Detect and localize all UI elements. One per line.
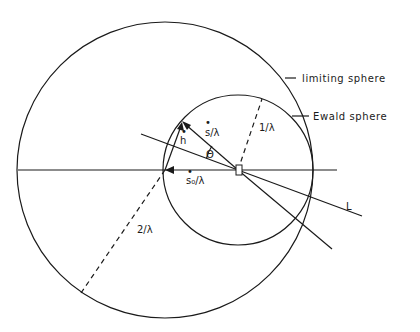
one-over-lambda-label: 1/λ [259, 122, 275, 133]
L-label: L [346, 201, 352, 212]
scattered-beam-line [238, 170, 332, 249]
two-over-lambda-label: 2/λ [137, 224, 153, 235]
line-L [238, 170, 362, 216]
ewald-construction-diagram: limiting sphere Ewald sphere s/λ • s₀/λ … [0, 0, 420, 332]
s-vector-mark: • [205, 117, 211, 128]
ewald-sphere-label: Ewald sphere [313, 111, 387, 122]
crystal-marker [236, 165, 242, 175]
radius-one-over-lambda [238, 99, 262, 170]
s0-vector-mark: • [187, 166, 193, 177]
h-vector-mark: • [181, 126, 187, 137]
limiting-sphere-label: limiting sphere [302, 73, 386, 84]
reflecting-plane-line [141, 134, 238, 170]
theta-label: Θ [206, 149, 214, 160]
s-over-lambda-label: s/λ [205, 127, 220, 138]
